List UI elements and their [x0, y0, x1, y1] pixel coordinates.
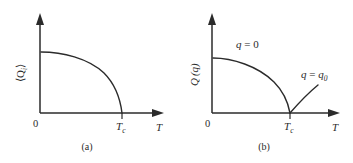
panel-b: Q(q) 0 Tc T q = 0 q = q0 (b) — [176, 0, 353, 163]
panel-a-y-axis-label: ⟨Qi⟩ — [14, 64, 29, 82]
panel-b-y-axis-label: Q(q) — [188, 63, 201, 86]
panel-b-curve-q-q0 — [290, 85, 318, 113]
panel-a-x-axis-arrow-icon — [152, 109, 164, 117]
panel-b-annotation-q-zero-eq: = — [242, 38, 254, 50]
panel-b-origin-label: 0 — [205, 118, 210, 129]
panel-b-x-axis-arrow-icon — [328, 109, 340, 117]
panel-b-y-axis-arrow-icon — [208, 13, 216, 25]
panel-b-annotation-q-zero-rhs: 0 — [253, 38, 259, 50]
panel-b-curve-q-zero — [213, 58, 290, 113]
panel-a-y-label-close: ⟩ — [14, 64, 26, 68]
panel-b-annotation-q-q0-eq: = — [307, 68, 319, 80]
panel-b-caption: (b) — [258, 141, 270, 153]
panel-b-x-axis-label: T — [332, 121, 339, 133]
panel-b-annotation-q-zero: q = 0 — [236, 38, 259, 50]
svg-text:Q(q): Q(q) — [188, 63, 201, 86]
panel-a-y-axis-arrow-icon — [36, 13, 44, 25]
panel-b-y-label-sub: (q) — [188, 63, 201, 76]
panel-b-tick-label: Tc — [284, 120, 294, 135]
panel-a-y-label-open: ⟨Q — [14, 70, 26, 82]
panel-b-annotation-q-q0-rhs-sub: 0 — [324, 74, 328, 83]
panel-a-tick-label-sub: c — [122, 126, 126, 135]
panel-a-origin-label: 0 — [33, 118, 38, 129]
svg-text:⟨Qi⟩: ⟨Qi⟩ — [14, 64, 29, 82]
panel-b-y-label-main: Q — [188, 78, 200, 86]
figure-root: ⟨Qi⟩ 0 Tc T (a) Q(q) — [0, 0, 353, 163]
panel-a: ⟨Qi⟩ 0 Tc T (a) — [0, 0, 176, 163]
panel-b-annotation-q-q0: q = q0 — [301, 68, 328, 83]
panel-a-x-axis-label: T — [156, 121, 163, 133]
panel-a-tick-label: Tc — [116, 120, 126, 135]
panel-b-tick-label-sub: c — [290, 126, 294, 135]
panel-a-order-parameter-curve — [41, 52, 122, 113]
panel-a-caption: (a) — [81, 141, 92, 153]
